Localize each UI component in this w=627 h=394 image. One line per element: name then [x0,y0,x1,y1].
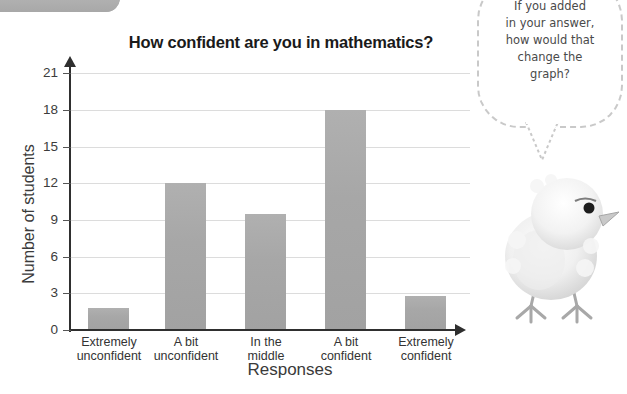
y-tick-label-9: 9 [22,212,58,227]
gridline-18 [70,110,470,111]
y-tick-0 [63,330,71,331]
gridline-21 [70,73,470,74]
page-root: How confident are you in mathematics? Nu… [0,0,627,394]
x-category-a-bit-unconfident: A bit unconfident [141,336,231,363]
speech-bubble-line-2: in your answer, [482,15,618,32]
x-category-line-1: A bit [301,336,391,350]
x-axis-line [69,329,457,331]
bar-extremely-unconfident [88,308,129,330]
speech-bubble-line-3: how would that [482,32,618,49]
bar-a-bit-unconfident [165,183,206,330]
bar-in-the-middle [245,214,286,330]
y-tick-label-18: 18 [22,102,58,117]
y-tick-18 [63,110,71,111]
y-tick-9 [63,220,71,221]
chick-illustration [487,168,627,343]
y-tick-label-21: 21 [22,65,58,80]
plot-area: 0 3 6 9 12 15 18 21 Extremely unconfiden… [0,0,480,394]
y-tick-label-0: 0 [22,322,58,337]
x-category-line-2: confident [381,350,471,364]
y-tick-label-6: 6 [22,249,58,264]
y-tick-label-12: 12 [22,175,58,190]
x-axis-arrow-icon [455,324,466,336]
speech-bubble-line-4: change the [482,49,618,66]
x-axis-label: Responses [200,360,380,380]
x-category-line-1: Extremely [381,336,471,350]
y-tick-12 [63,183,71,184]
x-category-in-the-middle: In the middle [221,336,311,363]
speech-bubble-tail [524,120,564,162]
y-axis-line [69,64,71,332]
y-tick-6 [63,257,71,258]
y-tick-label-15: 15 [22,139,58,154]
y-tick-label-3: 3 [22,285,58,300]
speech-bubble-text: If you added in your answer, how would t… [482,0,618,83]
x-category-extremely-confident: Extremely confident [381,336,471,363]
bar-chart: How confident are you in mathematics? Nu… [0,0,480,394]
x-category-a-bit-confident: A bit confident [301,336,391,363]
speech-bubble-line-5: graph? [482,66,618,83]
y-tick-21 [63,73,71,74]
bar-extremely-confident [405,296,446,330]
x-category-line-1: In the [221,336,311,350]
x-category-line-1: A bit [141,336,231,350]
y-tick-15 [63,147,71,148]
y-axis-arrow-icon [64,56,76,67]
bar-a-bit-confident [325,110,366,330]
speech-bubble-line-1: If you added [482,0,618,15]
gridline-12 [70,183,470,184]
gridline-15 [70,147,470,148]
y-tick-3 [63,293,71,294]
